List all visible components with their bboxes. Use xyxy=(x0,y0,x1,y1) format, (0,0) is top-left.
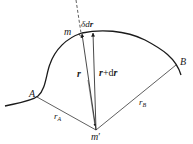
label-delta-dr: δdr xyxy=(81,20,93,29)
label-rA: rA xyxy=(54,112,61,122)
vector-r-tail-arrow xyxy=(88,80,95,126)
virtual-displacement-diagram xyxy=(0,0,193,144)
label-m: m xyxy=(64,27,71,37)
label-A: A xyxy=(29,89,35,99)
label-rB: rB xyxy=(139,98,146,108)
radius-line-rA xyxy=(37,97,96,130)
label-r-plus-dr: r+dr xyxy=(99,68,117,78)
label-B: B xyxy=(180,57,186,67)
vector-r-arrow xyxy=(82,34,96,130)
label-m-prime: m′ xyxy=(91,132,100,142)
label-r: r xyxy=(77,69,81,79)
